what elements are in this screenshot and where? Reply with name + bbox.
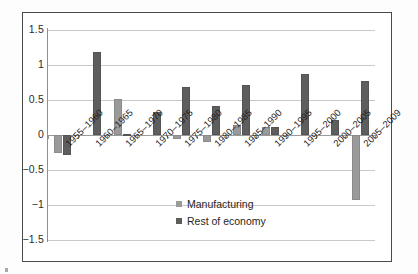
y-tick-label: 1.5 [29,23,44,35]
legend-item: Rest of economy [176,213,326,228]
gridline [48,240,375,241]
bar-manufacturing [352,135,360,200]
y-tick-label: −1.5 [22,233,44,245]
gridline [48,170,375,171]
chart-legend: Manufacturing Rest of economy [176,196,326,230]
y-tick-label: 0.5 [29,93,44,105]
y-axis-labels: 1.510.50−0.5−1−1.5 [0,0,44,274]
legend-label-manufacturing: Manufacturing [187,198,254,210]
bar-manufacturing [54,135,62,153]
chart-figure: 1.510.50−0.5−1−1.5 1955–19601960–1965196… [0,0,418,274]
gridline [48,30,375,31]
y-tick-label: −0.5 [22,163,44,175]
y-tick-label: 0 [38,128,44,140]
legend-swatch-manufacturing [176,201,182,207]
bar-manufacturing [203,135,211,142]
x-axis-tick [48,135,49,139]
y-tick-label: −1 [32,198,44,210]
y-tick-label: 1 [38,58,44,70]
scan-artifact [5,268,8,272]
legend-label-rest-of-economy: Rest of economy [187,215,266,227]
bar-manufacturing [173,135,181,139]
legend-swatch-rest-of-economy [176,218,182,224]
legend-item: Manufacturing [176,196,326,211]
